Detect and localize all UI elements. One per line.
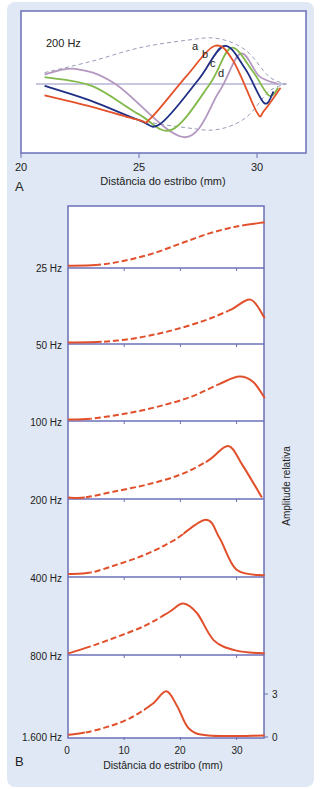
figure: 200 Hz a b c d 20 25 30 Distância do est… — [0, 0, 321, 789]
freq-label-800: 800 Hz — [30, 651, 62, 662]
panel-b-ylabel: Amplitude relativa — [281, 446, 292, 526]
panel-b-ytick-label-3: 3 — [272, 689, 278, 700]
panel-b-letter: B — [15, 754, 24, 769]
freq-label-400: 400 Hz — [30, 573, 62, 584]
panel-b-frequency-labels: 25 Hz 50 Hz 100 Hz 200 Hz 400 Hz 800 Hz … — [22, 263, 62, 743]
panel-a-frequency-label: 200 Hz — [46, 37, 81, 49]
freq-label-50: 50 Hz — [36, 340, 62, 351]
panel-b-xtick-10: 10 — [118, 745, 130, 756]
freq-label-25: 25 Hz — [36, 263, 62, 274]
panel-b: 25 Hz 50 Hz 100 Hz 200 Hz 400 Hz 800 Hz … — [15, 206, 292, 771]
panel-b-ytick-label-0: 0 — [272, 732, 278, 743]
panel-b-xtick-0: 0 — [64, 745, 70, 756]
panel-a-xtick-30: 30 — [251, 161, 263, 173]
panel-a-xtick-25: 25 — [133, 161, 145, 173]
panel-b-frame — [68, 206, 264, 738]
curve-label-c: c — [210, 57, 216, 69]
curve-label-b: b — [202, 48, 208, 60]
freq-label-100: 100 Hz — [30, 417, 62, 428]
panel-a-xlabel: Distância do estribo (mm) — [100, 175, 225, 187]
panel-b-xtick-30: 30 — [231, 745, 243, 756]
panel-a-xtick-20: 20 — [15, 161, 27, 173]
freq-label-200: 200 Hz — [30, 495, 62, 506]
panel-a-frame — [21, 11, 306, 153]
panel-b-xlabel: Distância do estribo (mm) — [103, 759, 223, 771]
curve-label-a: a — [192, 40, 199, 52]
freq-label-1600: 1.600 Hz — [22, 732, 62, 743]
panel-b-xtick-20: 20 — [174, 745, 186, 756]
curve-label-d: d — [218, 67, 224, 79]
panel-a: 200 Hz a b c d 20 25 30 Distância do est… — [15, 11, 306, 194]
panel-a-letter: A — [15, 179, 24, 194]
